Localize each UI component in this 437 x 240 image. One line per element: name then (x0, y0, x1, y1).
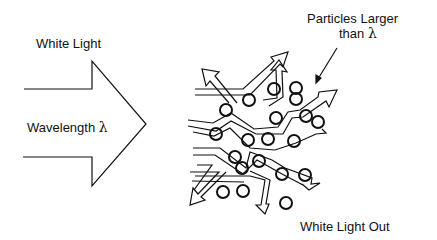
particles-label-line1: Particles Larger (307, 12, 398, 25)
particles-label-line2: than λ (339, 26, 377, 40)
lambda-symbol-2: λ (368, 25, 377, 41)
wavelength-label: Wavelength λ (27, 120, 108, 134)
white-light-out-label: White Light Out (300, 220, 390, 233)
white-light-label: White Light (36, 37, 101, 50)
lambda-symbol: λ (99, 119, 108, 135)
wavelength-text: Wavelength (27, 120, 95, 135)
than-text: than (339, 26, 364, 41)
